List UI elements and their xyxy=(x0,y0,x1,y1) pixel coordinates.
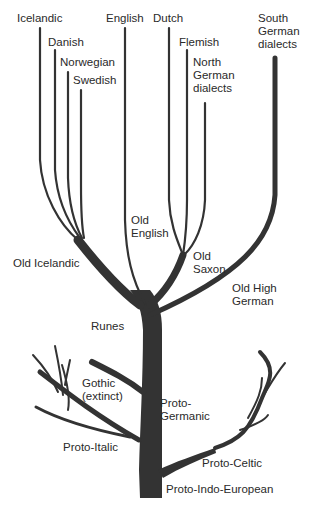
label-gothic: Gothic (extinct) xyxy=(82,377,123,403)
label-swedish: Swedish xyxy=(73,74,116,87)
branch-old-saxon xyxy=(150,255,183,305)
label-icelandic: Icelandic xyxy=(17,12,62,25)
branch-swedish xyxy=(81,90,84,238)
label-proto-italic: Proto-Italic xyxy=(63,441,118,454)
label-old-icelandic: Old Icelandic xyxy=(13,257,79,270)
language-tree-diagram xyxy=(0,0,313,508)
label-proto-indo-european: Proto-Indo-European xyxy=(166,483,273,496)
branch-dutch xyxy=(169,28,183,255)
label-danish: Danish xyxy=(48,36,84,49)
label-norwegian: Norwegian xyxy=(60,56,115,69)
label-dutch: Dutch xyxy=(153,12,183,25)
label-old-english: Old English xyxy=(131,214,169,240)
branch-flemish xyxy=(183,50,187,255)
label-north-german-dialects: North German dialects xyxy=(193,56,235,95)
branch-english xyxy=(125,28,145,303)
label-flemish: Flemish xyxy=(179,36,219,49)
label-south-german-dialects: South German dialects xyxy=(258,12,300,51)
label-proto-germanic: Proto- Germanic xyxy=(160,397,210,423)
label-runes: Runes xyxy=(91,320,124,333)
label-old-saxon: Old Saxon xyxy=(193,250,226,276)
label-english: English xyxy=(106,12,144,25)
label-proto-celtic: Proto-Celtic xyxy=(202,457,262,470)
branch-old-icelandic xyxy=(78,240,140,305)
label-old-high-german: Old High German xyxy=(232,282,277,308)
